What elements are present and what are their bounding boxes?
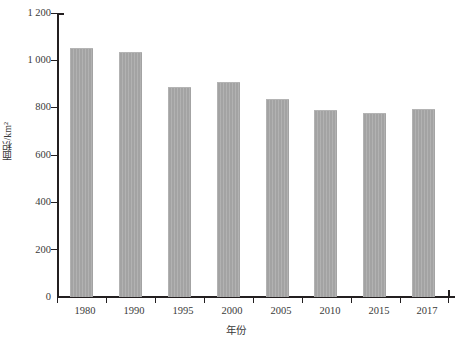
- y-axis-tick-label-400: 400: [7, 197, 51, 208]
- x-axis-label-2010: 2010: [302, 305, 358, 316]
- x-axis-tick-boundary-0: [57, 296, 58, 303]
- x-axis-tick-boundary-5: [302, 296, 303, 303]
- bar-1990: [119, 52, 142, 297]
- x-axis-tick-boundary-6: [351, 296, 352, 303]
- bar-1980: [70, 48, 93, 297]
- plot-area: [57, 13, 455, 297]
- x-axis-label-1980: 1980: [57, 305, 113, 316]
- bar-2010: [314, 110, 337, 297]
- bar-chart: 面积/km² 1 200 1 000 800 600 400 200 0: [0, 0, 472, 347]
- x-axis-tick-boundary-2: [155, 296, 156, 303]
- x-axis-tick-boundary-4: [253, 296, 254, 303]
- x-axis-tick-boundary-1: [106, 296, 107, 303]
- y-axis-tick-label-800: 800: [7, 102, 51, 113]
- y-axis-tick-label-1000: 1 000: [7, 55, 51, 66]
- x-axis-label-2017: 2017: [399, 305, 455, 316]
- y-axis-tick-1000: [51, 60, 58, 61]
- bar-2005: [266, 99, 289, 297]
- x-axis-tick-boundary-7: [400, 296, 401, 303]
- x-axis-label-2000: 2000: [204, 305, 260, 316]
- y-axis-tick-600: [51, 155, 58, 156]
- x-axis-label-2005: 2005: [253, 305, 309, 316]
- y-axis-tick-label-600: 600: [7, 150, 51, 161]
- y-axis-tick-label-200: 200: [7, 245, 51, 256]
- y-axis-tick-label-0: 0: [7, 292, 51, 303]
- x-axis-label-1995: 1995: [155, 305, 211, 316]
- bar-1995: [168, 87, 191, 297]
- bar-2015: [363, 113, 386, 297]
- bar-2000: [217, 82, 240, 297]
- x-axis-title: 年份: [0, 325, 472, 337]
- y-axis-tick-1200: [51, 13, 58, 14]
- x-axis-tick-boundary-8: [448, 296, 449, 303]
- y-axis-tick-800: [51, 107, 58, 108]
- x-axis-line: [57, 296, 455, 298]
- x-axis-tick-boundary-3: [204, 296, 205, 303]
- bar-2017: [412, 109, 435, 297]
- y-axis-tick-200: [51, 249, 58, 250]
- y-axis-top-cap: [57, 13, 64, 15]
- y-axis-tick-400: [51, 202, 58, 203]
- y-axis-tick-label-1200: 1 200: [7, 8, 51, 19]
- x-axis-label-1990: 1990: [106, 305, 162, 316]
